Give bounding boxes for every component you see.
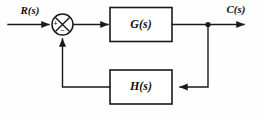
feedback-path-block-label: H(s): [129, 79, 152, 93]
block-diagram-canvas: R(s) + − G(s) C(s) H(s): [0, 0, 265, 117]
summing-junction-minus-sign: −: [60, 26, 65, 35]
wire-feedback-block-to-summing-junction: [63, 39, 111, 87]
forward-path-block-label: G(s): [130, 17, 151, 31]
summing-junction-plus-sign: +: [53, 19, 58, 28]
feedback-path-block: H(s): [110, 70, 172, 104]
output-signal-label: C(s): [227, 3, 246, 16]
wire-takeoff-node-to-feedback-block: [180, 25, 208, 88]
input-signal-label: R(s): [20, 4, 40, 17]
forward-path-block: G(s): [110, 8, 172, 42]
block-diagram-svg: R(s) + − G(s) C(s) H(s): [0, 0, 265, 117]
summing-junction: + −: [52, 14, 73, 35]
